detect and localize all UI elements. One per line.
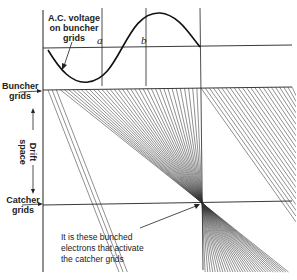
electron-trajectory-line [143,89,238,272]
electron-trajectory-line [255,87,296,147]
electron-trajectory-line [131,89,246,272]
electron-trajectory-line [276,87,297,118]
label-pointer-arrow [64,42,72,66]
electron-trajectory-line [242,88,296,165]
electron-trajectory-line [209,88,296,210]
ac-baseline [43,45,292,48]
electron-trajectory-line [247,88,297,159]
electron-trajectory-line [292,87,296,96]
electron-trajectory-line [234,88,296,176]
electron-trajectory-line [230,88,296,182]
electron-trajectory-line [259,87,296,141]
vertical-line-right [200,8,203,270]
arrowhead-icon [31,189,35,194]
electron-trajectory-line [147,89,235,272]
electron-trajectory-line [164,89,226,272]
electron-trajectory-line [263,87,296,135]
buncher-grids-label: Buncher grids [2,81,38,101]
point-a-label: a [97,34,103,46]
catcher-grids-label: Catcher grids [5,195,41,215]
electron-trajectory-line [222,88,296,193]
drift-space-label: Drift space [18,132,38,172]
klystron-bunching-diagram [0,0,296,280]
buncher-grid-line [43,87,292,90]
electron-trajectory-line [156,89,231,272]
electron-trajectory-line [271,87,296,124]
electron-trajectory-line [193,88,208,272]
ac-voltage-label: A.C. voltage on buncher grids [46,13,102,43]
arrowhead-icon [62,63,67,70]
electron-trajectory-line [218,88,296,199]
electron-trajectory-line [160,89,228,272]
catcher-grid-line [43,201,292,205]
arrowhead-icon [31,108,35,113]
point-b-label: b [141,34,147,46]
bunching-annotation: It is these bunched electrons that activ… [61,232,144,265]
electron-trajectory-line [127,89,249,272]
annotation-arrow [140,206,196,228]
electron-trajectory-line [205,88,296,216]
electron-trajectory-line [288,87,296,101]
